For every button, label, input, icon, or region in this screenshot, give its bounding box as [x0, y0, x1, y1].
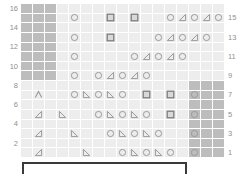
- chart-cell-r7-c11[interactable]: [141, 91, 153, 101]
- chart-cell-r13-c9[interactable]: [117, 33, 129, 43]
- chart-cell-r4-c4[interactable]: [57, 120, 69, 130]
- chart-cell-r1-c8[interactable]: [105, 148, 117, 158]
- chart-cell-r9-c4[interactable]: [57, 71, 69, 81]
- chart-cell-r9-c6[interactable]: [81, 71, 93, 81]
- chart-cell-r7-c5[interactable]: [69, 91, 81, 101]
- chart-cell-r6-c15[interactable]: [189, 100, 201, 110]
- chart-cell-r10-c14[interactable]: [177, 62, 189, 72]
- chart-cell-r13-c3[interactable]: [45, 33, 57, 43]
- chart-cell-r16-c8[interactable]: [105, 4, 117, 14]
- chart-cell-r10-c13[interactable]: [165, 62, 177, 72]
- chart-cell-r8-c5[interactable]: [69, 81, 81, 91]
- chart-cell-r10-c2[interactable]: [33, 62, 45, 72]
- chart-cell-r14-c16[interactable]: [201, 23, 213, 33]
- chart-cell-r15-c16[interactable]: [201, 14, 213, 24]
- chart-cell-r16-c12[interactable]: [153, 4, 165, 14]
- chart-cell-r15-c10[interactable]: [129, 14, 141, 24]
- chart-cell-r10-c4[interactable]: [57, 62, 69, 72]
- chart-cell-r15-c9[interactable]: [117, 14, 129, 24]
- chart-cell-r8-c4[interactable]: [57, 81, 69, 91]
- chart-cell-r6-c5[interactable]: [69, 100, 81, 110]
- chart-cell-r3-c7[interactable]: [93, 129, 105, 139]
- chart-cell-r13-c15[interactable]: [189, 33, 201, 43]
- chart-cell-r8-c1[interactable]: [21, 81, 33, 91]
- chart-cell-r16-c17[interactable]: [213, 4, 225, 14]
- chart-cell-r6-c2[interactable]: [33, 100, 45, 110]
- chart-cell-r5-c1[interactable]: [21, 110, 33, 120]
- chart-cell-r7-c8[interactable]: [105, 91, 117, 101]
- chart-cell-r5-c15[interactable]: [189, 110, 201, 120]
- chart-cell-r14-c4[interactable]: [57, 23, 69, 33]
- chart-cell-r6-c11[interactable]: [141, 100, 153, 110]
- chart-cell-r15-c5[interactable]: [69, 14, 81, 24]
- chart-cell-r11-c6[interactable]: [81, 52, 93, 62]
- chart-cell-r10-c7[interactable]: [93, 62, 105, 72]
- chart-cell-r4-c11[interactable]: [141, 120, 153, 130]
- chart-cell-r4-c6[interactable]: [81, 120, 93, 130]
- chart-cell-r6-c7[interactable]: [93, 100, 105, 110]
- chart-cell-r8-c7[interactable]: [93, 81, 105, 91]
- chart-cell-r2-c13[interactable]: [165, 139, 177, 149]
- chart-cell-r4-c13[interactable]: [165, 120, 177, 130]
- chart-cell-r8-c13[interactable]: [165, 81, 177, 91]
- chart-cell-r14-c2[interactable]: [33, 23, 45, 33]
- chart-cell-r11-c16[interactable]: [201, 52, 213, 62]
- chart-cell-r12-c6[interactable]: [81, 43, 93, 53]
- chart-cell-r14-c15[interactable]: [189, 23, 201, 33]
- chart-cell-r14-c5[interactable]: [69, 23, 81, 33]
- chart-cell-r12-c12[interactable]: [153, 43, 165, 53]
- chart-cell-r11-c17[interactable]: [213, 52, 225, 62]
- chart-cell-r10-c3[interactable]: [45, 62, 57, 72]
- chart-cell-r10-c6[interactable]: [81, 62, 93, 72]
- chart-cell-r11-c1[interactable]: [21, 52, 33, 62]
- chart-cell-r1-c3[interactable]: [45, 148, 57, 158]
- chart-cell-r9-c16[interactable]: [201, 71, 213, 81]
- chart-cell-r14-c12[interactable]: [153, 23, 165, 33]
- chart-cell-r15-c4[interactable]: [57, 14, 69, 24]
- chart-cell-r6-c4[interactable]: [57, 100, 69, 110]
- chart-cell-r1-c1[interactable]: [21, 148, 33, 158]
- chart-cell-r10-c1[interactable]: [21, 62, 33, 72]
- chart-cell-r12-c9[interactable]: [117, 43, 129, 53]
- chart-cell-r16-c13[interactable]: [165, 4, 177, 14]
- chart-cell-r2-c2[interactable]: [33, 139, 45, 149]
- chart-cell-r16-c14[interactable]: [177, 4, 189, 14]
- chart-cell-r4-c9[interactable]: [117, 120, 129, 130]
- chart-cell-r4-c3[interactable]: [45, 120, 57, 130]
- chart-cell-r16-c5[interactable]: [69, 4, 81, 14]
- chart-cell-r14-c9[interactable]: [117, 23, 129, 33]
- chart-cell-r9-c13[interactable]: [165, 71, 177, 81]
- chart-cell-r13-c1[interactable]: [21, 33, 33, 43]
- chart-cell-r8-c15[interactable]: [189, 81, 201, 91]
- chart-cell-r8-c8[interactable]: [105, 81, 117, 91]
- chart-cell-r1-c7[interactable]: [93, 148, 105, 158]
- chart-cell-r2-c12[interactable]: [153, 139, 165, 149]
- chart-cell-r15-c13[interactable]: [165, 14, 177, 24]
- chart-cell-r15-c11[interactable]: [141, 14, 153, 24]
- chart-cell-r4-c7[interactable]: [93, 120, 105, 130]
- chart-cell-r11-c15[interactable]: [189, 52, 201, 62]
- chart-cell-r2-c6[interactable]: [81, 139, 93, 149]
- chart-cell-r6-c10[interactable]: [129, 100, 141, 110]
- chart-cell-r12-c11[interactable]: [141, 43, 153, 53]
- chart-cell-r10-c8[interactable]: [105, 62, 117, 72]
- chart-cell-r4-c12[interactable]: [153, 120, 165, 130]
- chart-cell-r2-c15[interactable]: [189, 139, 201, 149]
- chart-cell-r12-c3[interactable]: [45, 43, 57, 53]
- chart-cell-r7-c12[interactable]: [153, 91, 165, 101]
- chart-cell-r16-c15[interactable]: [189, 4, 201, 14]
- chart-cell-r12-c4[interactable]: [57, 43, 69, 53]
- chart-cell-r16-c11[interactable]: [141, 4, 153, 14]
- chart-cell-r1-c16[interactable]: [201, 148, 213, 158]
- chart-cell-r9-c3[interactable]: [45, 71, 57, 81]
- chart-cell-r16-c16[interactable]: [201, 4, 213, 14]
- chart-cell-r6-c16[interactable]: [201, 100, 213, 110]
- chart-cell-r5-c13[interactable]: [165, 110, 177, 120]
- chart-cell-r11-c9[interactable]: [117, 52, 129, 62]
- chart-cell-r15-c6[interactable]: [81, 14, 93, 24]
- chart-cell-r5-c17[interactable]: [213, 110, 225, 120]
- chart-cell-r4-c1[interactable]: [21, 120, 33, 130]
- chart-cell-r11-c3[interactable]: [45, 52, 57, 62]
- chart-cell-r7-c13[interactable]: [165, 91, 177, 101]
- chart-cell-r7-c4[interactable]: [57, 91, 69, 101]
